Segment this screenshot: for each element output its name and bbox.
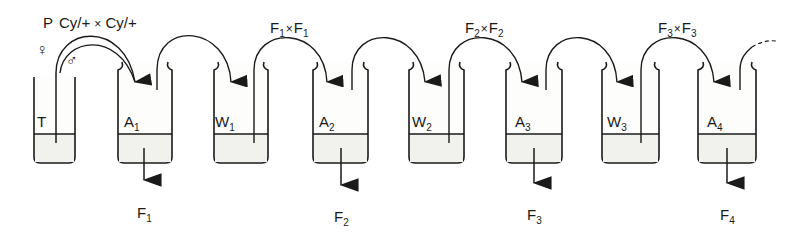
output-label-F2: F2 xyxy=(334,208,349,228)
breeding-scheme-diagram: T A1 W1 A2 W2 A3 W3 xyxy=(0,0,806,233)
male-symbol-icon: ♂ xyxy=(66,52,78,69)
female-symbol-icon: ♀ xyxy=(36,41,48,58)
tube-A1: A1 xyxy=(118,62,172,163)
cross-label-F3xF3: F3×F3 xyxy=(658,19,697,39)
output-label-F4: F4 xyxy=(720,206,735,226)
tube-T: T xyxy=(34,73,75,163)
tube-A3: A3 xyxy=(506,62,562,163)
continuation-dashed-arc xyxy=(752,41,776,47)
tube-W2: W2 xyxy=(409,62,464,163)
cross-label-F2xF2: F2×F2 xyxy=(465,19,504,39)
output-label-F3: F3 xyxy=(527,206,542,226)
tube-W1: W1 xyxy=(214,62,268,163)
tube-W3: W3 xyxy=(602,62,659,163)
parental-cross-label: P Cy/+ × Cy/+ xyxy=(43,14,137,31)
cross-label-F1xF1: F1×F1 xyxy=(270,19,309,39)
tube-label-T: T xyxy=(37,113,46,130)
output-label-F1: F1 xyxy=(137,204,152,224)
tube-A4: A4 xyxy=(698,62,756,163)
tube-A2: A2 xyxy=(313,62,368,163)
